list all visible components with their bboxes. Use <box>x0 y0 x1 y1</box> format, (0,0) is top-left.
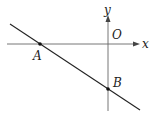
x-axis-arrow-icon <box>133 42 140 47</box>
diagram-canvas: y x O A B <box>0 0 154 116</box>
point-a-label: A <box>32 49 42 63</box>
origin-label: O <box>112 28 122 42</box>
point-b <box>106 87 110 91</box>
x-axis-label: x <box>142 37 149 51</box>
point-b-label: B <box>112 76 122 90</box>
point-a <box>38 42 42 46</box>
y-axis-label: y <box>103 3 111 17</box>
